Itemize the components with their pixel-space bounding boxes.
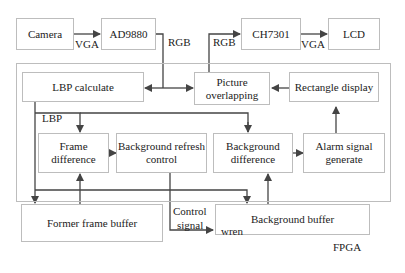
ad9880-label: AD9880	[110, 28, 148, 41]
camera-block: Camera	[16, 18, 74, 50]
alarm-signal-generate-label: Alarm signal generate	[311, 140, 377, 166]
background-difference-block: Background difference	[213, 133, 293, 173]
wren-label: wren	[221, 225, 243, 237]
former-frame-buffer-block: Former frame buffer	[21, 204, 163, 242]
ch7301-label: CH7301	[252, 28, 289, 41]
vga-out-label: VGA	[301, 38, 325, 50]
background-buffer-label: Background buffer	[251, 213, 334, 226]
lbp-calculate-label: LBP calculate	[52, 81, 114, 94]
alarm-signal-generate-block: Alarm signal generate	[303, 133, 385, 173]
former-frame-buffer-label: Former frame buffer	[47, 217, 137, 230]
picture-overlapping-block: Picture overlapping	[194, 72, 270, 105]
fpga-label: FPGA	[333, 241, 361, 253]
rectangle-display-label: Rectangle display	[295, 81, 374, 94]
lbp-calculate-block: LBP calculate	[22, 72, 144, 102]
lcd-block: LCD	[328, 18, 380, 50]
rgb-in-label: RGB	[168, 36, 191, 48]
vga-in-label: VGA	[75, 38, 99, 50]
background-refresh-control-label: Background refresh control	[117, 140, 206, 166]
lbp-label: LBP	[42, 112, 62, 124]
rgb-out-label: RGB	[213, 36, 236, 48]
frame-difference-label: Frame difference	[49, 140, 99, 166]
rectangle-display-block: Rectangle display	[289, 72, 379, 102]
ad9880-block: AD9880	[101, 18, 156, 50]
signal-label: signal	[177, 219, 203, 231]
background-refresh-control-block: Background refresh control	[116, 133, 207, 173]
lcd-label: LCD	[343, 28, 365, 41]
background-difference-label: Background difference	[223, 140, 283, 166]
ch7301-block: CH7301	[241, 18, 301, 50]
control-label: Control	[173, 205, 207, 217]
picture-overlapping-label: Picture overlapping	[195, 76, 269, 102]
frame-difference-block: Frame difference	[38, 133, 109, 173]
camera-label: Camera	[28, 28, 62, 41]
